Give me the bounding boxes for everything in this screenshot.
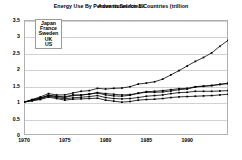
data-point-marker xyxy=(227,93,228,95)
data-point-marker xyxy=(105,94,107,96)
data-point-marker xyxy=(186,91,188,93)
data-point-marker xyxy=(154,98,156,100)
data-point-marker xyxy=(80,94,82,96)
data-point-marker xyxy=(129,101,131,103)
y-axis-tick-label: 0.5 xyxy=(13,116,20,122)
data-point-marker xyxy=(97,97,99,99)
data-point-marker xyxy=(178,70,180,72)
series-line xyxy=(24,84,228,102)
data-point-marker xyxy=(170,89,172,91)
series-japan xyxy=(24,40,228,103)
data-point-marker xyxy=(219,94,221,96)
data-point-marker xyxy=(146,82,148,84)
data-point-marker xyxy=(203,85,205,87)
y-axis-tick-label: 2.5 xyxy=(13,50,20,56)
series-line xyxy=(24,83,228,102)
data-point-marker xyxy=(121,95,123,97)
data-point-marker xyxy=(137,99,139,101)
series-sweden xyxy=(24,83,228,103)
data-point-marker xyxy=(195,61,197,63)
data-point-marker xyxy=(31,100,33,102)
data-point-marker xyxy=(113,98,115,100)
y-axis-tick-label: 2 xyxy=(17,66,20,72)
data-point-marker xyxy=(80,90,82,92)
data-point-marker xyxy=(146,99,148,101)
chart-title-overlay: Adventures for 19 xyxy=(98,3,144,10)
x-axis-tick-label: 1975 xyxy=(59,137,71,143)
data-point-marker xyxy=(219,84,221,86)
data-point-marker xyxy=(97,92,99,94)
data-point-marker xyxy=(178,96,180,98)
data-point-marker xyxy=(146,95,148,97)
data-point-marker xyxy=(88,98,90,100)
x-axis-tick-label: 1990 xyxy=(181,137,193,143)
data-point-marker xyxy=(203,95,205,97)
data-point-marker xyxy=(105,99,107,101)
data-point-marker xyxy=(154,95,156,97)
data-point-marker xyxy=(80,98,82,100)
data-point-marker xyxy=(178,88,180,90)
y-axis: 00.511.522.533.5 xyxy=(0,20,22,135)
data-point-marker xyxy=(48,96,50,98)
data-point-marker xyxy=(121,98,123,100)
data-point-marker xyxy=(170,74,172,76)
data-point-marker xyxy=(227,40,228,42)
data-point-marker xyxy=(170,97,172,99)
data-point-marker xyxy=(162,78,164,80)
data-point-marker xyxy=(211,90,213,92)
data-point-marker xyxy=(121,87,123,89)
data-point-marker xyxy=(113,95,115,97)
x-axis-tick-label: 1970 xyxy=(18,137,30,143)
data-point-marker xyxy=(195,90,197,92)
data-point-marker xyxy=(178,92,180,94)
data-point-marker xyxy=(88,90,90,92)
data-point-marker xyxy=(72,98,74,100)
data-point-marker xyxy=(105,97,107,99)
data-point-marker xyxy=(195,95,197,97)
data-point-marker xyxy=(64,96,66,98)
data-point-marker xyxy=(186,65,188,67)
series-line xyxy=(24,40,228,102)
y-axis-tick-label: 3.5 xyxy=(13,17,20,23)
x-axis-tick-label: 1980 xyxy=(100,137,112,143)
data-point-marker xyxy=(227,83,228,85)
data-point-marker xyxy=(211,95,213,97)
data-point-marker xyxy=(203,57,205,59)
data-point-marker xyxy=(72,92,74,94)
data-point-marker xyxy=(162,94,164,96)
data-point-marker xyxy=(219,90,221,92)
data-point-marker xyxy=(219,45,221,47)
data-point-marker xyxy=(121,101,123,103)
data-point-marker xyxy=(227,90,228,92)
data-point-marker xyxy=(170,93,172,95)
x-axis: 19701975198019851990 xyxy=(24,137,228,149)
data-point-marker xyxy=(80,96,82,98)
data-point-marker xyxy=(105,88,107,90)
data-point-marker xyxy=(162,98,164,100)
data-point-marker xyxy=(129,86,131,88)
y-axis-tick-label: 1.5 xyxy=(13,83,20,89)
x-axis-tick-label: 1985 xyxy=(141,137,153,143)
data-point-marker xyxy=(186,87,188,89)
data-point-marker xyxy=(64,94,66,96)
y-axis-tick-label: 3 xyxy=(17,33,20,39)
data-point-marker xyxy=(88,96,90,98)
chart-container: Energy Use By Person in Selected Countri… xyxy=(0,0,242,160)
data-point-marker xyxy=(203,90,205,92)
data-point-marker xyxy=(154,81,156,83)
data-point-marker xyxy=(211,85,213,87)
data-point-marker xyxy=(146,91,148,93)
data-point-marker xyxy=(24,101,25,103)
data-point-marker xyxy=(137,97,139,99)
data-point-marker xyxy=(64,99,66,101)
series-france xyxy=(24,82,228,103)
data-point-marker xyxy=(72,94,74,96)
data-point-marker xyxy=(195,86,197,88)
data-point-marker xyxy=(97,87,99,89)
data-point-marker xyxy=(137,83,139,85)
data-point-marker xyxy=(154,90,156,92)
data-point-marker xyxy=(129,94,131,96)
data-point-marker xyxy=(186,96,188,98)
data-point-marker xyxy=(113,87,115,89)
chart-title: Energy Use By Person in Selected Countri… xyxy=(0,3,242,10)
